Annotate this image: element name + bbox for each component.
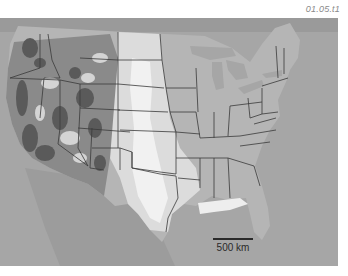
- figure-id-label: 01.05.t1: [306, 4, 340, 14]
- map-svg: [0, 18, 338, 266]
- scale-bar-label: 500 km: [211, 242, 255, 253]
- scale-bar-line: [213, 238, 253, 240]
- scale-bar: 500 km: [211, 238, 255, 253]
- us-relief-map: [0, 18, 338, 266]
